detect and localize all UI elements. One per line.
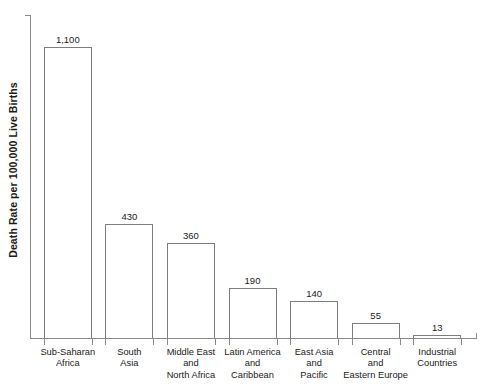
x-axis-tick bbox=[400, 338, 401, 345]
bar-value-label: 140 bbox=[290, 288, 338, 299]
x-axis-tick bbox=[92, 338, 93, 345]
x-axis-tick bbox=[352, 338, 353, 345]
bar bbox=[413, 335, 461, 338]
x-axis-tick bbox=[461, 338, 462, 345]
x-axis-tick bbox=[215, 338, 216, 345]
x-axis-tick bbox=[229, 338, 230, 345]
bar bbox=[105, 224, 153, 338]
x-axis-line bbox=[30, 338, 476, 339]
x-axis-tick bbox=[413, 338, 414, 345]
bar-group: 13 bbox=[413, 15, 461, 338]
bar bbox=[290, 301, 338, 338]
x-axis-category-label: IndustrialCountries bbox=[400, 347, 474, 370]
bar bbox=[44, 47, 92, 338]
bar-group: 140 bbox=[290, 15, 338, 338]
bar-group: 1,100 bbox=[44, 15, 92, 338]
plot-area: 1,1004303601901405513 bbox=[30, 15, 476, 338]
bar-group: 190 bbox=[229, 15, 277, 338]
category-label-line: Industrial bbox=[400, 347, 474, 358]
x-axis-tick bbox=[44, 338, 45, 345]
bar bbox=[229, 288, 277, 338]
x-axis-tick bbox=[105, 338, 106, 345]
y-axis-label-text: Death Rate per 100,000 Live Births bbox=[7, 82, 19, 258]
bar-value-label: 55 bbox=[352, 310, 400, 321]
category-label-line: Countries bbox=[400, 358, 474, 369]
bar-chart: Death Rate per 100,000 Live Births 1,100… bbox=[0, 0, 484, 389]
bar bbox=[167, 243, 215, 338]
category-label-line: Eastern Europe bbox=[339, 370, 413, 381]
bar-group: 55 bbox=[352, 15, 400, 338]
bar-value-label: 360 bbox=[167, 230, 215, 241]
bar-value-label: 13 bbox=[413, 322, 461, 333]
bar-value-label: 1,100 bbox=[44, 34, 92, 45]
x-axis-tick bbox=[153, 338, 154, 345]
bar-group: 430 bbox=[105, 15, 153, 338]
bar bbox=[352, 323, 400, 338]
y-axis-label: Death Rate per 100,000 Live Births bbox=[0, 0, 26, 340]
x-axis-tick bbox=[338, 338, 339, 345]
bar-value-label: 430 bbox=[105, 211, 153, 222]
x-axis-tick bbox=[277, 338, 278, 345]
x-axis-tick bbox=[167, 338, 168, 345]
bar-group: 360 bbox=[167, 15, 215, 338]
bar-value-label: 190 bbox=[229, 275, 277, 286]
x-axis-end-tick bbox=[476, 333, 477, 339]
x-axis-tick bbox=[290, 338, 291, 345]
